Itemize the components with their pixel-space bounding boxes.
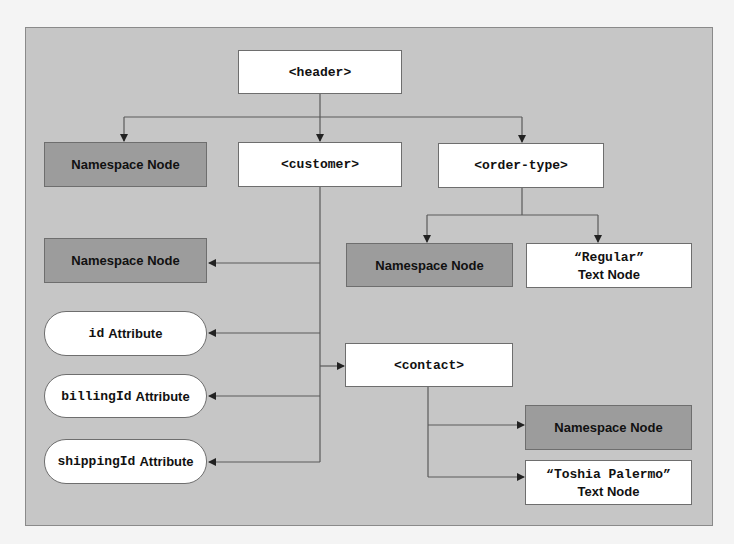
attribute-kind: Attribute [108,326,162,341]
customer-namespace-node: Namespace Node [44,238,207,283]
header-element-node: <header> [238,50,402,94]
text-node-value: “Regular” [574,249,644,266]
node-label: <contact> [394,358,464,373]
node-label: Namespace Node [71,157,179,172]
node-label: Namespace Node [554,420,662,435]
customer-element-node: <customer> [238,142,402,187]
node-label: <header> [289,65,351,80]
order-type-namespace-node: Namespace Node [346,243,513,287]
attribute-name: id [89,326,105,341]
node-label: Namespace Node [375,258,483,273]
text-node-kind: Text Node [578,483,640,500]
text-node-value: “Toshia Palermo” [546,466,671,483]
order-type-text-node: “Regular” Text Node [526,243,692,288]
node-label: Namespace Node [71,253,179,268]
attribute-name: billingId [61,389,131,404]
order-type-element-node: <order-type> [438,143,604,188]
contact-namespace-node: Namespace Node [525,405,692,450]
attribute-name: shippingId [57,454,135,469]
attribute-kind: Attribute [139,454,193,469]
node-label: <order-type> [474,158,568,173]
text-node-kind: Text Node [578,266,640,283]
shippingid-attribute-node: shippingId Attribute [44,439,207,484]
node-label: <customer> [281,157,359,172]
contact-element-node: <contact> [345,343,513,387]
id-attribute-node: id Attribute [44,311,207,356]
header-namespace-node: Namespace Node [44,142,207,187]
billingid-attribute-node: billingId Attribute [44,374,207,418]
attribute-kind: Attribute [136,389,190,404]
contact-text-node: “Toshia Palermo” Text Node [525,460,692,505]
